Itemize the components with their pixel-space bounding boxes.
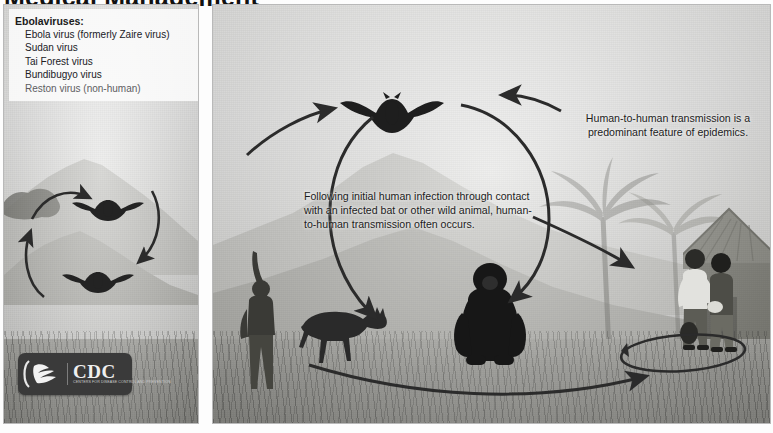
bat-left-upper-icon	[70, 197, 146, 223]
cdc-tagline: CENTERS FOR DISEASE CONTROL AND PREVENTI…	[73, 380, 171, 384]
gorilla-icon	[448, 257, 532, 369]
legend-item: Reston virus (non-human)	[15, 82, 195, 95]
hunter-icon	[231, 243, 287, 403]
figure-page: Medical Management	[0, 0, 773, 433]
center-caption: Following initial human infection throug…	[304, 189, 544, 232]
ebolavirus-legend: Ebolaviruses: Ebola virus (formerly Zair…	[9, 9, 199, 101]
legend-item: Sudan virus	[15, 41, 195, 54]
cdc-name: CDC	[73, 363, 171, 380]
legend-title: Ebolaviruses:	[15, 14, 195, 28]
cdc-wordmark: CDC CENTERS FOR DISEASE CONTROL AND PREV…	[67, 363, 171, 384]
legend-item: Ebola virus (formerly Zaire virus)	[15, 28, 195, 41]
main-panel: Following initial human infection throug…	[212, 4, 771, 424]
duiker-icon	[293, 303, 393, 369]
bat-left-lower-icon	[60, 269, 136, 295]
bat-main-icon	[338, 95, 446, 137]
legend-item: Bundibugyo virus	[15, 68, 195, 81]
legend-item: Tai Forest virus	[15, 55, 195, 68]
left-panel: Ebolaviruses: Ebola virus (formerly Zair…	[3, 4, 199, 424]
hhs-department-mark-icon	[23, 357, 63, 391]
right-caption: Human-to-human transmission is a predomi…	[563, 111, 771, 139]
cdc-logo: CDC CENTERS FOR DISEASE CONTROL AND PREV…	[18, 353, 132, 395]
legend-list: Ebola virus (formerly Zaire virus) Sudan…	[15, 28, 195, 95]
villagers-icon	[673, 245, 745, 365]
